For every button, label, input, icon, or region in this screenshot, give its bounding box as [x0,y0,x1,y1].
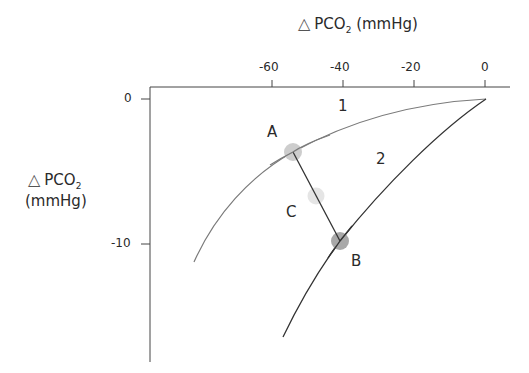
segment-a-b [293,152,340,241]
y-title-text: PCO [44,171,75,189]
x-tick-label: -40 [330,60,350,74]
curve-1-label: 1 [338,97,348,115]
y-axis-unit: (mmHg) [25,192,87,210]
y-tick-label: 0 [124,91,132,105]
curve-2-label: 2 [376,150,386,168]
point-c-label: C [286,203,296,221]
x-title-text: PCO [314,15,345,33]
y-axis-title: △PCO2 [28,170,81,191]
delta-triangle-icon: △ [28,170,40,189]
x-tick-label: 0 [481,60,489,74]
x-title-subscript: 2 [346,25,352,35]
point-a-label: A [267,123,277,141]
delta-triangle-icon: △ [298,14,310,33]
x-tick-label: -20 [401,60,421,74]
x-title-unit: (mmHg) [356,15,418,33]
curve-2 [283,99,486,337]
y-tick-label: -10 [111,236,131,250]
point-b-label: B [351,252,361,270]
y-title-subscript: 2 [76,181,82,191]
x-axis-title: △PCO2 (mmHg) [298,14,418,35]
x-tick-label: -60 [259,60,279,74]
